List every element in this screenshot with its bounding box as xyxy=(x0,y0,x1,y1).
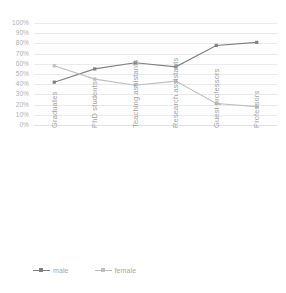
gridlines-and-series xyxy=(34,0,277,135)
y-axis-tick-label: 60% xyxy=(16,61,29,68)
series-layer xyxy=(34,0,277,135)
x-axis-tick-label: Graduates xyxy=(51,92,59,128)
x-axis-tick-label: Research assistants xyxy=(172,58,180,128)
data-point-male-0 xyxy=(53,81,56,84)
data-point-male-4 xyxy=(215,44,218,47)
x-axis-tick-labels: GraduatesPhD studentsTeaching assistants… xyxy=(34,128,277,248)
x-axis-tick-label: Guest professors xyxy=(213,68,221,128)
data-point-male-1 xyxy=(93,67,96,70)
legend-item-female[interactable]: female xyxy=(95,267,137,274)
line-chart: 100%90%80%70%60%50%40%30%20%10%0% Gradua… xyxy=(0,0,286,293)
legend-label: male xyxy=(53,267,69,274)
y-axis-tick-label: 70% xyxy=(16,50,29,57)
legend-marker-icon xyxy=(33,267,50,274)
data-point-female-0 xyxy=(53,64,56,67)
y-axis-tick-label: 80% xyxy=(16,40,29,47)
legend-item-male[interactable]: male xyxy=(33,267,69,274)
x-axis-tick-label: PhD students xyxy=(91,81,99,128)
data-point-male-5 xyxy=(255,41,258,44)
y-axis-tick-label: 0% xyxy=(19,122,29,129)
y-axis-tick-label: 50% xyxy=(16,71,29,78)
y-axis-tick-label: 30% xyxy=(16,91,29,98)
y-axis-tick-label: 90% xyxy=(16,30,29,37)
plot-area: 100%90%80%70%60%50%40%30%20%10%0% xyxy=(0,0,286,135)
y-axis-tick-label: 10% xyxy=(16,112,29,119)
y-axis-tick-labels: 100%90%80%70%60%50%40%30%20%10%0% xyxy=(0,0,33,135)
chart-legend: malefemale xyxy=(0,262,286,278)
y-axis-tick-label: 20% xyxy=(16,101,29,108)
y-axis-tick-label: 100% xyxy=(12,20,29,27)
legend-marker-icon xyxy=(95,267,112,274)
x-axis-tick-label: Professors xyxy=(253,91,261,128)
y-axis-tick-label: 40% xyxy=(16,81,29,88)
x-axis-tick-label: Teaching assistants xyxy=(132,60,140,128)
legend-label: female xyxy=(115,267,137,274)
